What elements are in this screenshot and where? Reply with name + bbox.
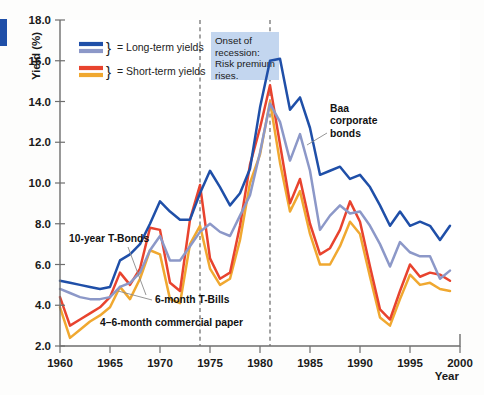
x-tick-label-2000: 2000 [447, 357, 473, 369]
chart-figure: Onset ofrecession:Risk premiumrises. 2.0… [0, 0, 484, 395]
x-tick-label-1970: 1970 [147, 357, 173, 369]
y-tick-label-4.0: 4.0 [35, 299, 51, 311]
recession-note-line-2: Risk premium [215, 58, 275, 69]
x-tick-label-1975: 1975 [197, 357, 223, 369]
x-tick-label-1990: 1990 [347, 357, 373, 369]
baa-label-line-2: bonds [330, 128, 361, 139]
x-tick-label-1995: 1995 [397, 357, 423, 369]
y-tick-label-12.0: 12.0 [29, 136, 51, 148]
x-axis-title: Year [435, 370, 460, 382]
legend-brace-0: } [106, 39, 111, 56]
x-tick-label-1985: 1985 [297, 357, 323, 369]
baa-label-line-0: Baa [330, 103, 349, 114]
recession-note-line-0: Onset of [215, 35, 252, 46]
legend-brace-1: } [106, 63, 111, 80]
y-tick-label-6.0: 6.0 [35, 259, 51, 271]
tbills-label-line-0: 6-month T-Bills [155, 294, 230, 305]
x-tick-label-1965: 1965 [97, 357, 123, 369]
x-tick-label-1980: 1980 [247, 357, 273, 369]
y-tick-label-2.0: 2.0 [35, 340, 51, 352]
baa-label-line-1: corporate [330, 115, 378, 126]
legend-label-1: = Short-term yields [117, 65, 205, 77]
x-tick-label-1960: 1960 [47, 357, 73, 369]
y-tick-label-18.0: 18.0 [29, 14, 51, 26]
recession-note-line-3: rises. [215, 70, 238, 81]
y-tick-label-10.0: 10.0 [29, 177, 51, 189]
yield-chart-svg: Onset ofrecession:Risk premiumrises. 2.0… [0, 0, 484, 395]
y-tick-label-8.0: 8.0 [35, 218, 51, 230]
recession-annotation-box: Onset ofrecession:Risk premiumrises. [211, 32, 279, 81]
tbonds-label-line-0: 10-year T-Bonds [69, 233, 149, 244]
cpaper-label-line-0: 4–6-month commercial paper [100, 317, 243, 328]
y-tick-label-14.0: 14.0 [29, 96, 51, 108]
recession-note-line-1: recession: [215, 47, 260, 58]
y-axis-title: Yield (%) [30, 32, 42, 80]
legend-label-0: = Long-term yields [117, 41, 204, 53]
